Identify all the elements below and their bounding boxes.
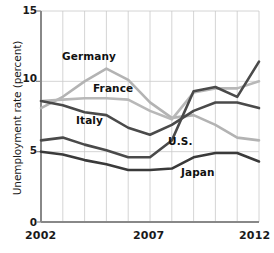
series-label-japan: Japan (181, 166, 215, 178)
axis-frame (36, 11, 259, 222)
series-label-germany: Germany (62, 50, 116, 62)
series-label-italy: Italy (76, 114, 103, 126)
unemployment-rate-line-chart: Unemployment rate (percent) 15 10 5 0 20… (0, 0, 274, 253)
gridlines (41, 11, 259, 222)
series-label-us: U.S. (168, 135, 192, 147)
series-label-france: France (93, 82, 133, 94)
plot-area (0, 0, 274, 253)
